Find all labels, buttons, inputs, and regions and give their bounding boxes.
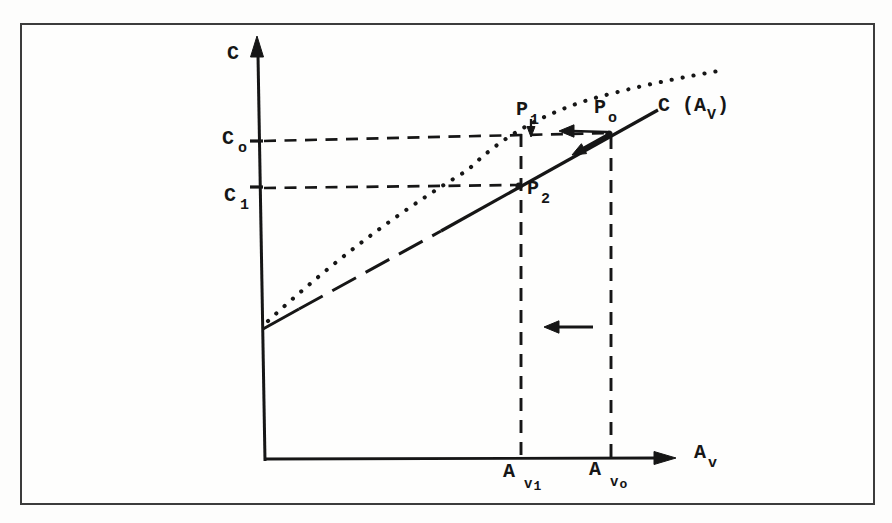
label-p-o-sub: o [608, 110, 617, 127]
label-p-o-base: P [594, 96, 606, 119]
label-a-vo-sub: v [610, 474, 618, 490]
label-c-1-base: C [224, 184, 236, 207]
x-axis-arrowhead-icon [654, 452, 676, 465]
label-c-1: C1 [224, 186, 249, 206]
arrow-avo-to-av1-head-icon [544, 321, 559, 333]
arrow-po-to-p1 [559, 125, 607, 137]
label-a-vo: Avo [589, 460, 627, 480]
label-a-vo-base: A [589, 458, 601, 481]
x-axis-label: Av [694, 443, 717, 463]
label-p-2-sub: 2 [541, 191, 550, 208]
y-axis-label: C [227, 44, 239, 64]
arrow-slide-down-line [572, 134, 610, 155]
c-of-av-line [263, 110, 658, 329]
x-axis-label-sub: v [708, 455, 717, 472]
y-axis [251, 36, 266, 461]
point-p-2 [515, 182, 522, 189]
y-axis-label-text: C [227, 42, 239, 65]
dashed-line-c-1 [264, 185, 516, 188]
arrow-avo-to-av1 [544, 321, 593, 333]
label-line-sub: V [707, 107, 716, 124]
label-a-vo-index: o [619, 477, 627, 492]
y-axis-arrowhead-icon [251, 36, 264, 57]
label-c-o-sub: o [238, 140, 247, 157]
label-p-o: Po [594, 98, 617, 118]
label-a-v1-index: 1 [533, 479, 541, 494]
c-of-av-line-dashed-mid [299, 231, 441, 309]
label-p-1-base: P [516, 98, 528, 121]
dotted-curve [268, 70, 724, 321]
label-c-o-base: C [222, 127, 234, 150]
label-a-v1-sub: v [524, 476, 532, 492]
label-line-close: ) [717, 94, 729, 117]
label-c-1-sub: 1 [240, 197, 249, 214]
y-axis-line [258, 55, 265, 461]
arrow-slide-shaft [583, 134, 610, 149]
label-line-open: C (A [658, 94, 706, 117]
arrow-slide-head-icon [572, 144, 587, 155]
x-axis-label-base: A [694, 441, 706, 464]
figure-canvas: C Co C1 P1 Po P2 C (AV) Av Av1 Avo [0, 0, 892, 523]
label-p-1: P1 [516, 100, 539, 120]
label-p-2-base: P [527, 177, 539, 200]
label-p-1-sub: 1 [530, 112, 539, 129]
label-line-c-of-av: C (AV) [658, 96, 729, 116]
label-a-v1: Av1 [503, 462, 541, 482]
label-p-2: P2 [527, 179, 550, 199]
dashed-line-c-o [264, 133, 608, 141]
c-of-av-line-solid-upper [441, 110, 658, 231]
label-a-v1-base: A [503, 460, 515, 483]
arrow-po-to-p1-shaft [572, 131, 607, 132]
label-c-o: Co [222, 129, 247, 149]
plot-svg [0, 0, 892, 523]
